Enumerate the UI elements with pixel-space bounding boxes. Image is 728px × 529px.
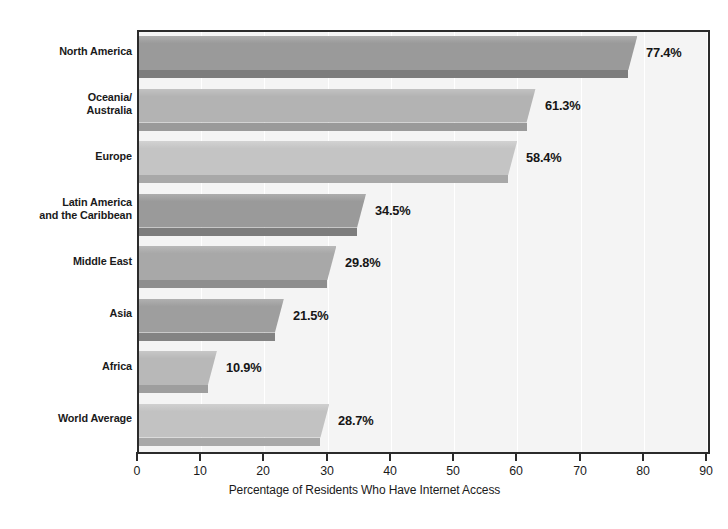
axis-tick-label: 80	[624, 463, 662, 478]
bar	[139, 299, 284, 341]
category-label: Middle East	[14, 255, 132, 269]
axis-tick-label: 0	[118, 463, 156, 478]
axis-tick-label: 30	[308, 463, 346, 478]
bar-front-face	[139, 89, 536, 123]
bar-value-label: 34.5%	[375, 203, 410, 218]
plot-area: 77.4%61.3%58.4%34.5%29.8%21.5%10.9%28.7%	[137, 30, 710, 454]
axis-tick-label: 20	[244, 463, 282, 478]
gridline	[707, 32, 708, 452]
bar-bottom-face	[139, 175, 508, 183]
bar	[139, 351, 217, 393]
bar-front-face	[139, 141, 517, 175]
axis-tick-label: 90	[687, 463, 725, 478]
internet-access-bar-chart: North AmericaOceania/ AustraliaEuropeLat…	[0, 0, 728, 529]
axis-tick-label: 70	[561, 463, 599, 478]
bar-front-face	[139, 246, 336, 280]
bar-bottom-face	[139, 385, 208, 393]
axis-tick-label: 10	[181, 463, 219, 478]
bar-value-label: 28.7%	[338, 413, 373, 428]
axis-tick-label: 40	[371, 463, 409, 478]
bar	[139, 246, 336, 288]
bar-value-label: 58.4%	[526, 150, 561, 165]
x-axis-title: Percentage of Residents Who Have Interne…	[0, 483, 728, 497]
axis-tick	[199, 452, 201, 461]
category-label: Asia	[14, 307, 132, 321]
axis-tick	[579, 452, 581, 461]
axis-tick	[705, 452, 707, 461]
category-label: Africa	[14, 360, 132, 374]
axis-tick-label: 50	[434, 463, 472, 478]
axis-tick	[326, 452, 328, 461]
category-label: Oceania/ Australia	[14, 91, 132, 118]
bar-bottom-face	[139, 333, 275, 341]
bar	[139, 404, 329, 446]
bar-front-face	[139, 36, 637, 70]
axis-tick	[262, 452, 264, 461]
axis-tick	[642, 452, 644, 461]
bar-value-label: 61.3%	[545, 98, 580, 113]
bar-bottom-face	[139, 280, 327, 288]
bar-bottom-face	[139, 123, 527, 131]
bar-front-face	[139, 351, 217, 385]
axis-tick	[389, 452, 391, 461]
x-axis-title-text: Percentage of Residents Who Have Interne…	[228, 483, 500, 497]
bar-value-label: 77.4%	[646, 45, 681, 60]
bar	[139, 89, 536, 131]
bar-front-face	[139, 404, 329, 438]
category-label: Latin America and the Caribbean	[14, 196, 132, 223]
bar-bottom-face	[139, 228, 357, 236]
bar-value-label: 29.8%	[345, 255, 380, 270]
bar	[139, 141, 517, 183]
bar	[139, 194, 366, 236]
bar-value-label: 10.9%	[226, 360, 261, 375]
bar-value-label: 21.5%	[293, 308, 328, 323]
category-label: Europe	[14, 150, 132, 164]
bar-front-face	[139, 299, 284, 333]
bar-bottom-face	[139, 70, 628, 78]
category-axis-labels: North AmericaOceania/ AustraliaEuropeLat…	[0, 0, 132, 529]
axis-tick-label: 60	[497, 463, 535, 478]
axis-tick	[515, 452, 517, 461]
gridline	[644, 32, 645, 452]
bar-front-face	[139, 194, 366, 228]
gridline	[581, 32, 582, 452]
category-label: World Average	[14, 412, 132, 426]
axis-tick	[452, 452, 454, 461]
bar-bottom-face	[139, 438, 320, 446]
category-label: North America	[14, 45, 132, 59]
axis-tick	[136, 452, 138, 461]
bar	[139, 36, 637, 78]
